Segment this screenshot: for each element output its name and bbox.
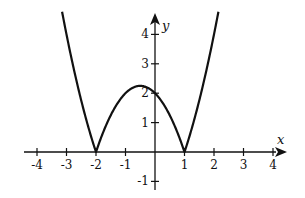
y-tick-label: -1 [137, 174, 149, 188]
y-tick-label: 3 [141, 57, 149, 71]
x-axis-arrow-icon [275, 147, 287, 157]
x-tick-label: 2 [210, 158, 218, 172]
x-tick-label: -1 [120, 158, 132, 172]
y-axis-label: y [161, 18, 170, 33]
function-graph: -4-3-2-11234-11234 x y [0, 0, 305, 198]
y-tick-label: 1 [141, 116, 149, 130]
x-axis-label: x [277, 132, 285, 147]
curve [62, 12, 218, 152]
tick-labels: -4-3-2-11234-11234 [31, 27, 277, 188]
x-tick-label: 4 [269, 158, 277, 172]
x-tick-label: -2 [90, 158, 102, 172]
x-tick-label: 1 [181, 158, 189, 172]
y-tick-label: 4 [141, 27, 149, 41]
x-tick-label: 3 [240, 158, 248, 172]
x-tick-label: -4 [31, 158, 43, 172]
x-tick-label: -3 [61, 158, 73, 172]
